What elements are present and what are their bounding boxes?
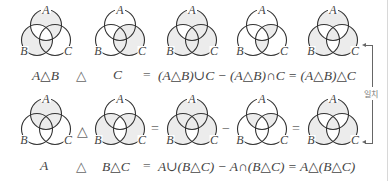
venn-a-symdiff-bc: ABC — [302, 94, 364, 156]
venn-ab-intersect-c: ABC — [231, 5, 293, 67]
venn-a-intersect-bc: ABC — [231, 94, 293, 156]
caption-equals: = — [143, 158, 151, 174]
svg-text:C: C — [351, 44, 360, 58]
caption-formula: (A△B)∪C − (A△B)∩C = (A△B)△C — [158, 67, 356, 84]
svg-text:B: B — [307, 44, 315, 58]
operator-equals: = — [151, 121, 159, 137]
svg-text:A: A — [115, 5, 124, 17]
caption-a: A — [40, 158, 48, 174]
svg-text:C: C — [210, 44, 219, 58]
operator-symdiff: △ — [77, 123, 88, 140]
svg-text:B: B — [236, 44, 244, 58]
svg-text:B: B — [20, 133, 28, 147]
caption-operator: △ — [76, 67, 86, 84]
arrow-left-icon — [362, 140, 366, 144]
arrow-left-icon — [362, 43, 366, 47]
svg-text:A: A — [328, 5, 337, 17]
svg-text:C: C — [64, 44, 73, 58]
svg-text:B: B — [236, 133, 244, 147]
svg-text:A: A — [187, 94, 196, 106]
venn-a-union-bc: ABC — [161, 94, 223, 156]
svg-text:B: B — [307, 133, 315, 147]
svg-text:B: B — [20, 44, 28, 58]
caption-formula: A∪(B△C) − A∩(B△C) = A△(B△C) — [158, 158, 355, 175]
operator-equals: = — [292, 121, 300, 137]
svg-text:C: C — [64, 133, 73, 147]
venn-b-symdiff-c: ABC — [89, 94, 151, 156]
match-label: 일치 — [364, 87, 378, 100]
svg-text:C: C — [210, 133, 219, 147]
svg-text:C: C — [280, 44, 289, 58]
venn-ab-union-c: ABC — [161, 5, 223, 67]
caption-equals: = — [143, 67, 151, 83]
svg-text:A: A — [115, 94, 124, 106]
caption-operator: △ — [76, 158, 86, 175]
caption-b-symdiff-c: B△C — [102, 158, 130, 175]
svg-text:A: A — [41, 94, 50, 106]
page-edge-divider — [387, 0, 388, 181]
operator-minus: − — [222, 121, 230, 137]
svg-text:C: C — [138, 44, 147, 58]
svg-text:A: A — [328, 94, 337, 106]
svg-text:C: C — [138, 133, 147, 147]
svg-text:A: A — [41, 5, 50, 17]
venn-a-symdiff-b: ABC — [15, 5, 77, 67]
svg-text:B: B — [94, 133, 102, 147]
caption-a-symdiff-b: A△B — [32, 67, 59, 84]
venn-c: ABC — [89, 5, 151, 67]
svg-text:B: B — [94, 44, 102, 58]
svg-text:A: A — [257, 94, 266, 106]
svg-text:A: A — [257, 5, 266, 17]
svg-text:C: C — [280, 133, 289, 147]
caption-c: C — [113, 67, 122, 83]
svg-text:A: A — [187, 5, 196, 17]
svg-text:B: B — [166, 44, 174, 58]
venn-ab-symdiff-c: ABC — [302, 5, 364, 67]
svg-text:B: B — [166, 133, 174, 147]
svg-text:C: C — [351, 133, 360, 147]
venn-a: ABC — [15, 94, 77, 156]
